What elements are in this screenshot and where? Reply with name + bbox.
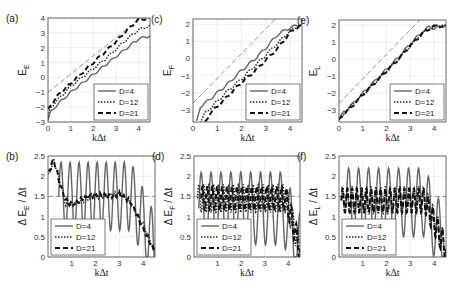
panel-c: 01234−3−2−1012kΔtEF(c)D=4D=12D=21 — [151, 14, 302, 143]
legend: D=4D=12D=21 — [342, 219, 396, 255]
legend-label: D=12 — [415, 98, 435, 107]
y-tick-label: −2 — [327, 89, 337, 98]
x-tick-label: 3 — [408, 259, 413, 268]
y-tick-label: 2.5 — [180, 152, 192, 161]
legend-label: D=4 — [76, 222, 91, 231]
legend: D=4D=12D=21 — [390, 84, 444, 120]
x-tick-label: 4 — [136, 124, 141, 133]
y-tick-label: 0.5 — [180, 233, 192, 242]
panel-a: 01234−3−2−101234kΔtEE(a)D=4D=12D=21 — [6, 11, 150, 143]
y-tick-label: 1.5 — [325, 192, 337, 201]
legend-label: D=4 — [415, 87, 430, 96]
x-axis-label: kΔt — [385, 267, 399, 278]
y-tick-label: 2.5 — [325, 152, 337, 161]
legend-label: D=12 — [119, 98, 139, 107]
legend-label: D=21 — [119, 109, 139, 118]
y-tick-label: −2 — [36, 103, 46, 112]
y-tick-label: 1.5 — [34, 192, 46, 201]
y-tick-label: −2 — [181, 89, 191, 98]
legend-label: D=21 — [222, 244, 242, 253]
x-tick-label: 1 — [68, 124, 73, 133]
legend-label: D=4 — [222, 222, 237, 231]
panel-f: 123400.511.522.5kΔtΔ EL / Δt(f)D=4D=12D=… — [297, 151, 446, 278]
y-axis-label: Δ EE / Δt — [17, 187, 30, 225]
legend-label: D=4 — [119, 87, 134, 96]
x-tick-label: 1 — [361, 124, 366, 133]
y-tick-label: −1 — [181, 72, 191, 81]
x-tick-label: 3 — [408, 124, 413, 133]
y-axis-label: EF — [162, 65, 175, 76]
legend: D=4D=12D=21 — [51, 219, 105, 255]
x-tick-label: 1 — [215, 259, 220, 268]
y-tick-label: −1 — [327, 72, 337, 81]
legend: D=4D=12D=21 — [246, 84, 300, 120]
x-tick-label: 3 — [114, 124, 119, 133]
legend-label: D=21 — [415, 109, 435, 118]
y-tick-label: 1 — [41, 59, 46, 68]
y-axis-label: EE — [17, 64, 30, 76]
y-axis-label: Δ EL / Δt — [308, 188, 321, 225]
y-tick-label: 0 — [186, 54, 191, 63]
x-tick-label: 0 — [337, 124, 342, 133]
panel-label: (b) — [6, 151, 18, 162]
y-tick-label: 2 — [187, 172, 192, 181]
y-tick-label: 3 — [41, 29, 46, 38]
y-tick-label: 0 — [332, 55, 337, 64]
x-tick-label: 1 — [361, 259, 366, 268]
x-axis-label: kΔt — [240, 132, 254, 143]
y-tick-label: 1 — [187, 213, 192, 222]
y-tick-label: 0.5 — [325, 233, 337, 242]
x-tick-label: 1 — [70, 259, 75, 268]
x-tick-label: 3 — [117, 259, 122, 268]
y-tick-label: 0 — [332, 253, 337, 262]
panel-d: 123400.511.522.5kΔtΔ EF / Δt(d)D=4D=12D=… — [152, 151, 300, 278]
y-tick-label: −3 — [181, 106, 191, 115]
x-axis-label: kΔt — [94, 267, 108, 278]
legend-label: D=12 — [271, 98, 291, 107]
y-tick-label: 2 — [332, 21, 337, 30]
y-tick-label: −3 — [327, 106, 337, 115]
y-tick-label: 0 — [41, 73, 46, 82]
y-tick-label: 1.5 — [180, 192, 192, 201]
y-tick-label: 2.5 — [34, 152, 46, 161]
y-tick-label: 1 — [41, 213, 46, 222]
y-tick-label: 0 — [41, 253, 46, 262]
x-tick-label: 4 — [432, 124, 437, 133]
legend-label: D=21 — [76, 244, 96, 253]
y-tick-label: 4 — [41, 14, 46, 23]
legend: D=4D=12D=21 — [94, 84, 148, 120]
legend-label: D=21 — [271, 109, 291, 118]
legend-label: D=12 — [76, 233, 96, 242]
x-tick-label: 4 — [432, 259, 437, 268]
y-tick-label: −3 — [36, 118, 46, 127]
x-tick-label: 4 — [141, 259, 146, 268]
legend-label: D=4 — [367, 222, 382, 231]
x-axis-label: kΔt — [385, 132, 399, 143]
legend-label: D=12 — [222, 233, 242, 242]
legend-label: D=12 — [367, 233, 387, 242]
legend-label: D=21 — [367, 244, 387, 253]
x-tick-label: 4 — [286, 259, 291, 268]
y-tick-label: 1 — [332, 213, 337, 222]
x-tick-label: 0 — [191, 124, 196, 133]
y-axis-label: EL — [308, 66, 321, 77]
panel-label: (c) — [151, 14, 163, 25]
y-tick-label: 2 — [332, 172, 337, 181]
legend-label: D=4 — [271, 87, 286, 96]
legend: D=4D=12D=21 — [197, 219, 251, 255]
x-tick-label: 1 — [215, 124, 220, 133]
x-tick-label: 0 — [46, 124, 51, 133]
panel-label: (e) — [297, 15, 309, 26]
y-axis-label: Δ EF / Δt — [163, 187, 176, 225]
panel-b: 123400.511.522.5kΔtΔ EE / Δt(b)D=4D=12D=… — [6, 151, 155, 278]
x-tick-label: 3 — [262, 259, 267, 268]
x-tick-label: 4 — [288, 124, 293, 133]
y-tick-label: 0.5 — [34, 233, 46, 242]
x-axis-label: kΔt — [240, 267, 254, 278]
y-tick-label: 1 — [332, 38, 337, 47]
panel-e: 01234−3−2−1012kΔtEL(e)D=4D=12D=21 — [297, 15, 446, 143]
panel-label: (d) — [152, 151, 164, 162]
y-tick-label: 2 — [186, 20, 191, 29]
panel-label: (a) — [6, 13, 18, 24]
panel-label: (f) — [297, 151, 306, 162]
